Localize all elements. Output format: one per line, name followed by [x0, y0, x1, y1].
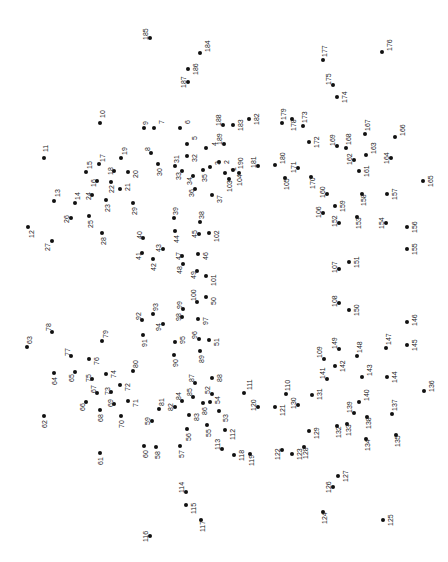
- dot-point[interactable]: [307, 140, 311, 144]
- dot-point[interactable]: [421, 179, 425, 183]
- dot-point[interactable]: [357, 169, 361, 173]
- dot-point[interactable]: [290, 452, 294, 456]
- dot-point[interactable]: [335, 95, 339, 99]
- dot-point[interactable]: [405, 225, 409, 229]
- dot-point[interactable]: [333, 204, 337, 208]
- dot-point[interactable]: [390, 412, 394, 416]
- dot-point[interactable]: [204, 146, 208, 150]
- dot-point[interactable]: [26, 225, 30, 229]
- dot-point[interactable]: [380, 50, 384, 54]
- dot-point[interactable]: [185, 154, 189, 158]
- dot-point[interactable]: [204, 295, 208, 299]
- dot-point[interactable]: [280, 121, 284, 125]
- dot-point[interactable]: [201, 401, 205, 405]
- dot-point[interactable]: [98, 121, 102, 125]
- dot-point[interactable]: [385, 192, 389, 196]
- dot-point[interactable]: [141, 333, 145, 337]
- dot-point[interactable]: [355, 354, 359, 358]
- dot-point[interactable]: [385, 375, 389, 379]
- dot-point[interactable]: [422, 389, 426, 393]
- dot-point[interactable]: [100, 339, 104, 343]
- dot-point[interactable]: [42, 414, 46, 418]
- dot-point[interactable]: [284, 392, 288, 396]
- dot-point[interactable]: [126, 170, 130, 174]
- dot-point[interactable]: [363, 132, 367, 136]
- dot-point[interactable]: [178, 126, 182, 130]
- dot-point[interactable]: [142, 126, 146, 130]
- dot-point[interactable]: [119, 156, 123, 160]
- dot-point[interactable]: [347, 260, 351, 264]
- dot-point[interactable]: [131, 201, 135, 205]
- dot-point[interactable]: [151, 257, 155, 261]
- dot-point[interactable]: [196, 252, 200, 256]
- dot-point[interactable]: [157, 407, 161, 411]
- dot-point[interactable]: [119, 414, 123, 418]
- dot-point[interactable]: [242, 391, 246, 395]
- dot-point[interactable]: [173, 229, 177, 233]
- dot-point[interactable]: [87, 214, 91, 218]
- dot-point[interactable]: [186, 67, 190, 71]
- dot-point[interactable]: [223, 428, 227, 432]
- dot-point[interactable]: [344, 146, 348, 150]
- dot-point[interactable]: [52, 371, 56, 375]
- dot-point[interactable]: [360, 375, 364, 379]
- dot-point[interactable]: [178, 444, 182, 448]
- dot-point[interactable]: [52, 199, 56, 203]
- dot-point[interactable]: [232, 453, 236, 457]
- dot-point[interactable]: [172, 353, 176, 357]
- dot-point[interactable]: [151, 312, 155, 316]
- dot-point[interactable]: [126, 399, 130, 403]
- dot-point[interactable]: [207, 231, 211, 235]
- dot-point[interactable]: [25, 345, 29, 349]
- dot-point[interactable]: [405, 320, 409, 324]
- dot-point[interactable]: [247, 117, 251, 121]
- dot-point[interactable]: [104, 372, 108, 376]
- dot-point[interactable]: [73, 201, 77, 205]
- dot-point[interactable]: [364, 153, 368, 157]
- dot-point[interactable]: [187, 413, 191, 417]
- dot-point[interactable]: [231, 123, 235, 127]
- dot-point[interactable]: [87, 357, 91, 361]
- dot-point[interactable]: [173, 164, 177, 168]
- dot-point[interactable]: [100, 231, 104, 235]
- dot-point[interactable]: [198, 51, 202, 55]
- dot-point[interactable]: [231, 168, 235, 172]
- dot-point[interactable]: [347, 308, 351, 312]
- dot-point[interactable]: [205, 423, 209, 427]
- dot-point[interactable]: [405, 343, 409, 347]
- dot-point[interactable]: [204, 274, 208, 278]
- dot-point[interactable]: [210, 376, 214, 380]
- dot-point[interactable]: [393, 135, 397, 139]
- dot-point[interactable]: [321, 58, 325, 62]
- dot-point[interactable]: [223, 171, 227, 175]
- dot-point[interactable]: [98, 408, 102, 412]
- dot-point[interactable]: [152, 126, 156, 130]
- dot-point[interactable]: [118, 383, 122, 387]
- dot-point[interactable]: [154, 445, 158, 449]
- dot-point[interactable]: [208, 400, 212, 404]
- dot-point[interactable]: [210, 193, 214, 197]
- dot-point[interactable]: [217, 409, 221, 413]
- dot-point[interactable]: [207, 338, 211, 342]
- dot-point[interactable]: [273, 163, 277, 167]
- dot-point[interactable]: [208, 165, 212, 169]
- dot-point[interactable]: [357, 400, 361, 404]
- dot-point[interactable]: [149, 151, 153, 155]
- dot-point[interactable]: [185, 142, 189, 146]
- dot-point[interactable]: [173, 340, 177, 344]
- dot-point[interactable]: [104, 198, 108, 202]
- dot-point[interactable]: [336, 474, 340, 478]
- dot-point[interactable]: [381, 518, 385, 522]
- dot-point[interactable]: [131, 369, 135, 373]
- dot-point[interactable]: [405, 247, 409, 251]
- dot-point[interactable]: [333, 364, 337, 368]
- dot-point[interactable]: [301, 124, 305, 128]
- dot-point[interactable]: [42, 156, 46, 160]
- dot-point[interactable]: [98, 451, 102, 455]
- dot-point[interactable]: [307, 429, 311, 433]
- dot-point[interactable]: [273, 405, 277, 409]
- dot-point[interactable]: [384, 346, 388, 350]
- dot-point[interactable]: [109, 180, 113, 184]
- dot-point[interactable]: [201, 168, 205, 172]
- dot-point[interactable]: [142, 444, 146, 448]
